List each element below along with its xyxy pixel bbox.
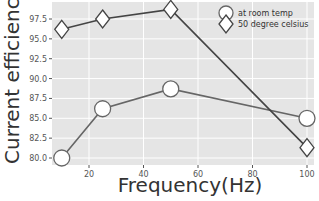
y-axis-label: Current efficiency(%) <box>0 14 26 164</box>
x-tick-label: 100 <box>299 170 314 179</box>
y-tick-label: 90.0 <box>29 75 47 84</box>
y-tick-label: 85.0 <box>29 114 47 123</box>
y-tick-label: 95.0 <box>29 35 47 44</box>
y-tick-label: 92.5 <box>29 55 47 64</box>
line-chart: 2040608010080.082.585.087.590.092.595.09… <box>0 0 319 201</box>
y-tick-label: 80.0 <box>29 154 47 163</box>
circle-marker <box>299 110 315 126</box>
legend-label: 50 degree celsius <box>238 20 308 29</box>
circle-marker <box>163 81 179 97</box>
legend-label: at room temp <box>238 9 293 18</box>
y-tick-label: 87.5 <box>29 94 47 103</box>
y-tick-label: 82.5 <box>29 134 47 143</box>
y-tick-label: 97.5 <box>29 15 47 24</box>
circle-marker <box>95 101 111 117</box>
x-tick-label: 20 <box>84 170 94 179</box>
circle-marker <box>54 150 70 166</box>
x-axis-label: Frequency(Hz) <box>100 173 280 197</box>
